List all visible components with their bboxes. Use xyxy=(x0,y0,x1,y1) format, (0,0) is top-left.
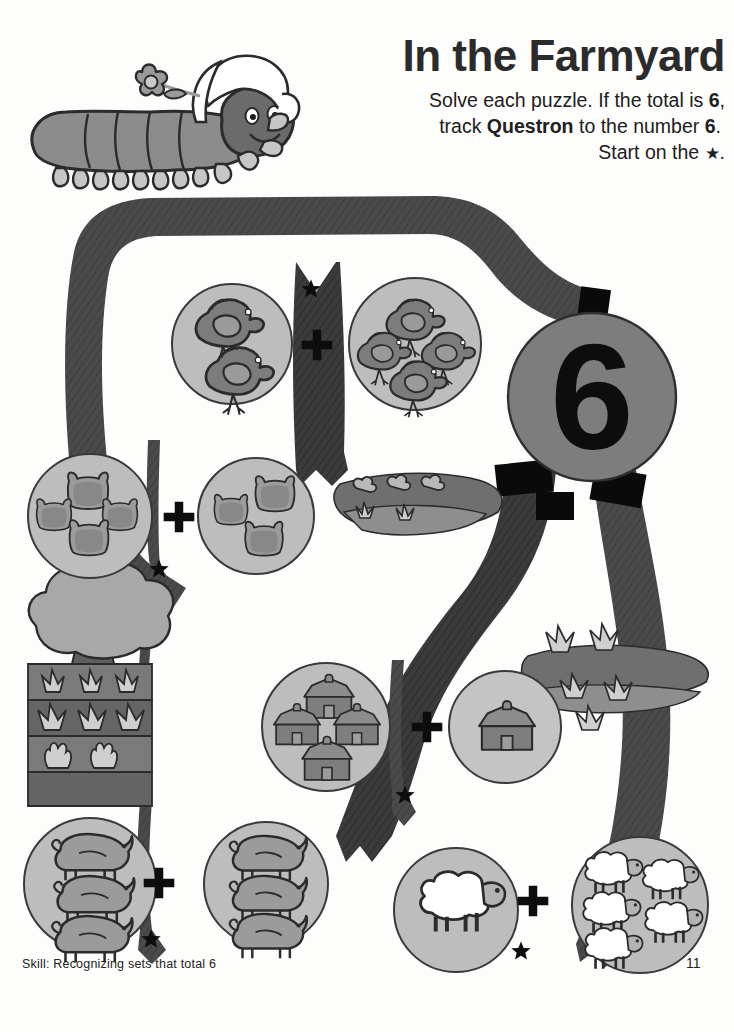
puzzle-cows xyxy=(28,454,314,578)
page-title: In the Farmyard xyxy=(325,34,725,78)
instruction-line2-number: 6 xyxy=(705,115,716,137)
page-number: 11 xyxy=(686,955,701,971)
puzzle-sheep xyxy=(394,837,708,973)
set-circle-left xyxy=(24,818,156,962)
ribbon-chicken-vertical xyxy=(293,262,348,486)
plus-operator xyxy=(518,886,549,917)
star-icon: ★ xyxy=(705,144,720,163)
instruction-line2-pre: track xyxy=(439,115,487,137)
worksheet-page: 6 xyxy=(0,0,734,1032)
set-circle-left xyxy=(28,454,152,578)
scenery-bushes-center xyxy=(334,473,502,535)
set-circle-right xyxy=(449,671,561,783)
instruction-line2-mid: to the number xyxy=(574,115,705,137)
set-circle-left xyxy=(172,284,292,415)
footer-skill-label: Skill: Recognizing sets that total 6 xyxy=(22,957,216,971)
instruction-line3-pre: Start on the xyxy=(598,141,704,163)
start-star xyxy=(511,941,530,959)
set-circle-left xyxy=(394,848,518,972)
page-header: In the Farmyard Solve each puzzle. If th… xyxy=(325,34,725,166)
set-circle-right xyxy=(349,278,481,417)
instruction-line1-number: 6 xyxy=(709,89,720,111)
scenery-tree-and-field-left xyxy=(28,562,173,806)
set-circle-right xyxy=(198,458,314,574)
instruction-character-name: Questron xyxy=(487,115,574,137)
questron-caterpillar xyxy=(32,56,299,189)
flower-icon xyxy=(136,65,167,96)
instructions: Solve each puzzle. If the total is 6, tr… xyxy=(325,88,725,166)
set-circle-right xyxy=(572,837,708,973)
instruction-line1-post: , xyxy=(720,89,725,111)
instruction-line1-pre: Solve each puzzle. If the total is xyxy=(429,89,709,111)
puzzle-pigs xyxy=(24,818,328,962)
instruction-line2-post: . xyxy=(716,115,721,137)
set-circle-left xyxy=(262,663,390,791)
set-circle-right xyxy=(204,822,328,958)
plus-operator xyxy=(164,502,195,533)
ribbon-black-seg-bottom xyxy=(536,492,574,520)
instruction-line3-post: . xyxy=(720,141,725,163)
target-number-text: 6 xyxy=(550,313,633,481)
target-number-circle[interactable]: 6 xyxy=(508,313,676,481)
